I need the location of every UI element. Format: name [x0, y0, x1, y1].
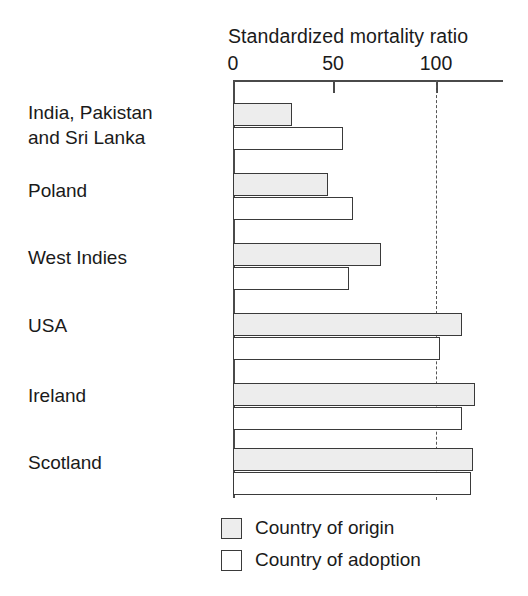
legend-swatch-adoption-icon: [221, 550, 242, 571]
bar-ireland-adoption: [233, 407, 462, 430]
legend-label-country-of-origin: Country of origin: [255, 517, 394, 539]
legend-item-country-of-adoption: Country of adoption: [221, 544, 421, 576]
bar-india-pakistan-sri-lanka-adoption: [233, 127, 343, 150]
bar-west-indies-adoption: [233, 267, 349, 290]
legend: Country of origin Country of adoption: [221, 512, 421, 576]
bar-scotland-origin: [233, 448, 473, 471]
standardized-mortality-ratio-chart: Standardized mortality ratio 0 50 100 In…: [0, 0, 528, 596]
bar-poland-origin: [233, 173, 328, 196]
bar-usa-origin: [233, 313, 462, 336]
legend-item-country-of-origin: Country of origin: [221, 512, 421, 544]
bar-scotland-adoption: [233, 472, 471, 495]
bar-poland-adoption: [233, 197, 353, 220]
plot-area: [0, 0, 528, 596]
bar-ireland-origin: [233, 383, 475, 406]
legend-label-country-of-adoption: Country of adoption: [255, 549, 421, 571]
bar-usa-adoption: [233, 337, 440, 360]
legend-swatch-origin-icon: [221, 518, 242, 539]
bar-west-indies-origin: [233, 243, 381, 266]
bar-india-pakistan-sri-lanka-origin: [233, 103, 292, 126]
